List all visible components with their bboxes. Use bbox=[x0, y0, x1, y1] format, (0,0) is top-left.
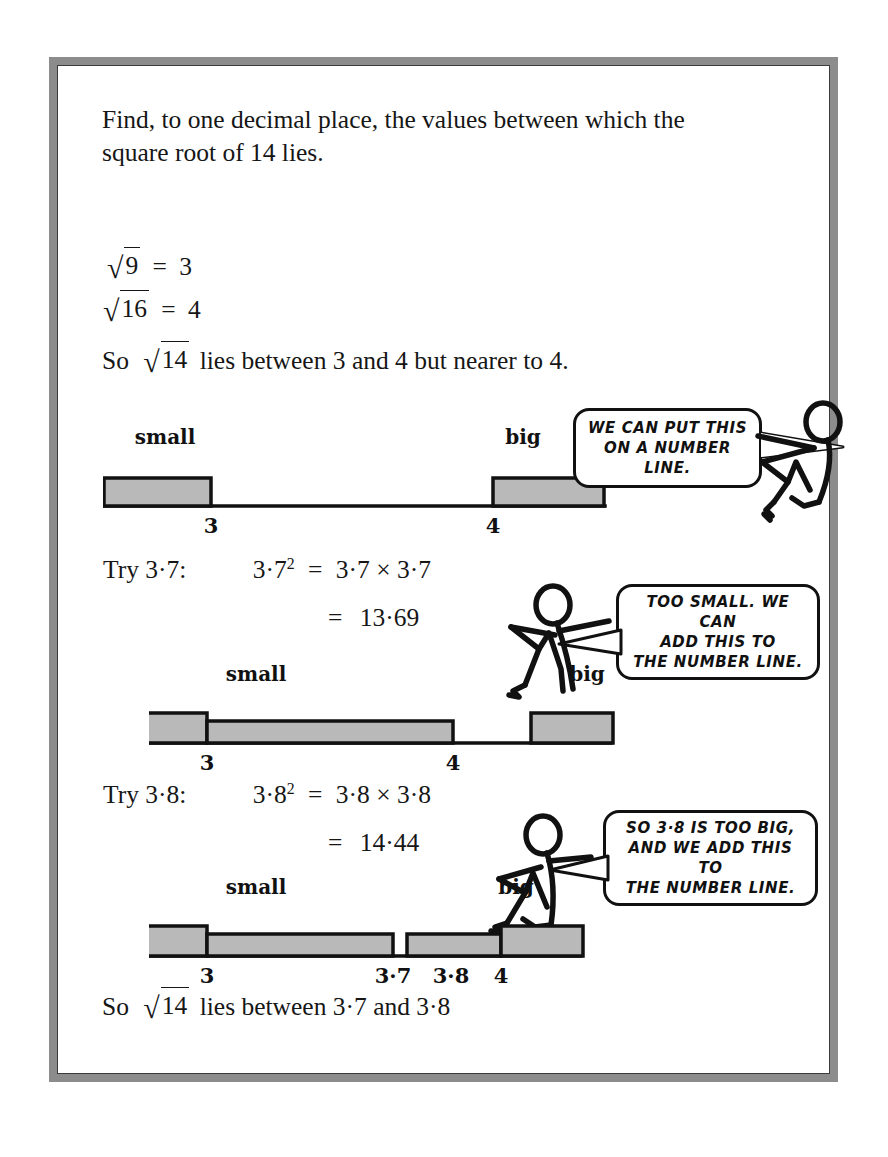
try-3-8-expression: 3·82 = 3·8 × 3·8 bbox=[253, 780, 431, 809]
final-conclusion-line: So √14 lies between 3·7 and 3·8 bbox=[102, 988, 450, 1023]
numline-3-label-small: small bbox=[226, 875, 287, 899]
speech-bubble-1-text: WE CAN PUT THIS ON A NUMBER LINE. bbox=[576, 414, 759, 482]
numline-1-tick-3: 3 bbox=[204, 513, 219, 538]
try-3-8-exponent: 2 bbox=[287, 780, 295, 797]
final-suffix: lies between 3·7 and 3·8 bbox=[200, 992, 451, 1021]
speech-bubble-1: WE CAN PUT THIS ON A NUMBER LINE. bbox=[573, 408, 762, 488]
numline-1-graphic bbox=[103, 451, 613, 513]
radicand-9: 9 bbox=[124, 247, 140, 282]
numline-2-graphic bbox=[149, 688, 619, 750]
numline-1-label-small: small bbox=[135, 425, 196, 449]
try-3-8-equals-2: = bbox=[328, 828, 342, 857]
try-3-7-equals-2: = bbox=[328, 603, 342, 632]
radical-9: √9 bbox=[105, 248, 140, 283]
final-prefix: So bbox=[102, 992, 129, 1021]
radicand-14: 14 bbox=[161, 341, 190, 376]
try-3-7-equals: = bbox=[308, 555, 322, 584]
equals-sign-2: = bbox=[161, 295, 175, 324]
numline-3-tick-3-7: 3·7 bbox=[375, 963, 412, 988]
root-16-result: 4 bbox=[188, 295, 201, 324]
numline-3-label-big: big bbox=[498, 875, 534, 899]
radicand-16: 16 bbox=[120, 290, 149, 325]
equation-root-9: √9 = 3 bbox=[105, 248, 192, 283]
try-3-8-product: 3·8 × 3·8 bbox=[336, 780, 431, 809]
numline-2-label-big: big bbox=[569, 662, 605, 686]
number-line-3: small big 3 3·7 3·8 4 bbox=[149, 875, 589, 971]
root-9-result: 3 bbox=[179, 252, 192, 281]
try-3-7-line: Try 3·7: 3·72 = 3·7 × 3·7 bbox=[103, 553, 431, 586]
numline-1-label-big: big bbox=[505, 425, 541, 449]
conclusion-1-prefix: So bbox=[102, 346, 129, 375]
number-line-1: small big 3 4 bbox=[103, 425, 613, 521]
question-line-2: square root of 14 lies. bbox=[102, 136, 324, 169]
numline-2-label-small: small bbox=[226, 662, 287, 686]
numline-3-graphic bbox=[149, 901, 589, 963]
stick-figure-1 bbox=[752, 398, 864, 528]
speech-bubble-2-text: TOO SMALL. WE CAN ADD THIS TO THE NUMBER… bbox=[619, 588, 817, 676]
numline-3-tick-4: 4 bbox=[494, 963, 509, 988]
try-3-7-exponent: 2 bbox=[287, 555, 295, 572]
question-text-2: square root of 14 lies. bbox=[102, 138, 324, 167]
speech-bubble-2: TOO SMALL. WE CAN ADD THIS TO THE NUMBER… bbox=[616, 584, 820, 680]
equals-sign-1: = bbox=[153, 252, 167, 281]
try-3-7-value: 13·69 bbox=[360, 603, 420, 632]
try-3-8-value: 14·44 bbox=[360, 828, 420, 857]
radical-14-first: √14 bbox=[141, 342, 189, 377]
page-content: Find, to one decimal place, the values b… bbox=[57, 65, 846, 1090]
radical-16: √16 bbox=[101, 291, 149, 326]
radicand-14-final: 14 bbox=[161, 987, 190, 1022]
speech-bubble-3: SO 3·8 IS TOO BIG, AND WE ADD THIS TO TH… bbox=[603, 810, 818, 906]
numline-2-tick-3-7: 4 bbox=[446, 750, 461, 775]
question-text-1: Find, to one decimal place, the values b… bbox=[102, 105, 685, 134]
numline-2-tick-3: 3 bbox=[200, 750, 215, 775]
page-frame: Find, to one decimal place, the values b… bbox=[49, 57, 838, 1082]
speech-bubble-3-text: SO 3·8 IS TOO BIG, AND WE ADD THIS TO TH… bbox=[606, 814, 815, 902]
numline-1-tick-4: 4 bbox=[486, 513, 501, 538]
equation-root-16: √16 = 4 bbox=[101, 291, 201, 326]
try-3-8-equals: = bbox=[308, 780, 322, 809]
try-3-8-label: Try 3·8: bbox=[103, 780, 186, 809]
try-3-7-result-line: = 13·69 bbox=[328, 601, 419, 634]
conclusion-1-suffix: lies between 3 and 4 but nearer to 4. bbox=[200, 346, 569, 375]
try-3-7-expression: 3·72 = 3·7 × 3·7 bbox=[253, 555, 431, 584]
radical-14-final: √14 bbox=[141, 988, 189, 1023]
try-3-8-base: 3·8 bbox=[253, 780, 287, 809]
try-3-8-result-line: = 14·44 bbox=[328, 826, 419, 859]
question-line-1: Find, to one decimal place, the values b… bbox=[102, 103, 685, 136]
try-3-8-line: Try 3·8: 3·82 = 3·8 × 3·8 bbox=[103, 778, 431, 811]
try-3-7-product: 3·7 × 3·7 bbox=[336, 555, 431, 584]
try-3-7-label: Try 3·7: bbox=[103, 555, 186, 584]
number-line-2: small big 3 4 bbox=[149, 662, 619, 758]
numline-3-tick-3-8: 3·8 bbox=[433, 963, 470, 988]
numline-3-tick-3: 3 bbox=[200, 963, 215, 988]
conclusion-line-1: So √14 lies between 3 and 4 but nearer t… bbox=[102, 342, 569, 377]
try-3-7-base: 3·7 bbox=[253, 555, 287, 584]
